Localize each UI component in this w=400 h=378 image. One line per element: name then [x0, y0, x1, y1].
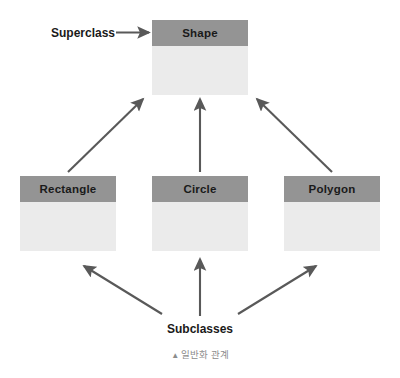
uml-class-rectangle[interactable]: Rectangle	[20, 176, 116, 251]
uml-class-rectangle-name: Rectangle	[20, 176, 116, 202]
subclasses-annotation-label: Subclasses	[0, 322, 400, 336]
uml-class-shape-name: Shape	[152, 20, 248, 46]
generalization-arrow-rectangle-to-shape	[68, 99, 143, 172]
uml-class-polygon[interactable]: Polygon	[284, 176, 380, 251]
uml-class-circle-body	[152, 202, 248, 251]
uml-class-circle[interactable]: Circle	[152, 176, 248, 251]
caption-triangle-icon: ▲	[171, 351, 179, 360]
uml-class-polygon-name: Polygon	[284, 176, 380, 202]
uml-class-shape[interactable]: Shape	[152, 20, 248, 95]
subclasses-pointer-arrow-left	[84, 266, 162, 314]
uml-generalization-diagram: Superclass Shape Rectangle Circle Polygo…	[0, 0, 400, 378]
generalization-arrow-polygon-to-shape	[257, 99, 332, 172]
figure-caption: ▲일반화 관계	[0, 347, 400, 361]
subclasses-pointer-arrow-right	[238, 266, 316, 314]
caption-text: 일반화 관계	[181, 349, 229, 360]
uml-class-shape-body	[152, 46, 248, 95]
uml-class-rectangle-body	[20, 202, 116, 251]
uml-class-circle-name: Circle	[152, 176, 248, 202]
uml-class-polygon-body	[284, 202, 380, 251]
superclass-annotation-label: Superclass	[51, 26, 115, 40]
